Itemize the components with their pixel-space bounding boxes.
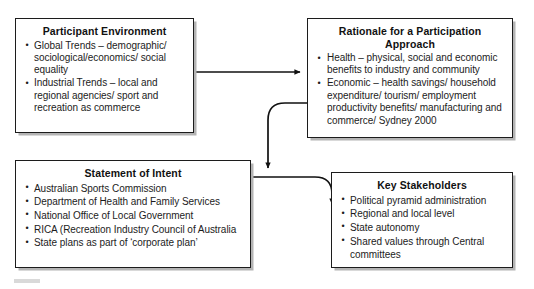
list-item: RICA (Recreation Industry Council of Aus… xyxy=(25,223,241,236)
node-list-participant-environment: Global Trends – demographic/ sociologica… xyxy=(25,40,184,115)
node-title-rationale: Rationale for a Participation Approach xyxy=(317,25,503,50)
node-list-rationale: Health – physical, social and economic b… xyxy=(317,52,503,127)
list-item: Department of Health and Family Services xyxy=(25,195,241,208)
page-edge-artifact xyxy=(14,279,40,283)
list-item: Economic – health savings/ household exp… xyxy=(317,77,503,127)
node-rationale-for-a-participation-approach[interactable]: Rationale for a Participation Approach H… xyxy=(307,18,513,138)
node-title-key-stakeholders: Key Stakeholders xyxy=(341,179,503,192)
node-participant-environment[interactable]: Participant Environment Global Trends – … xyxy=(15,18,194,133)
list-item: Health – physical, social and economic b… xyxy=(317,52,503,77)
node-title-statement-of-intent: Statement of Intent xyxy=(25,167,241,180)
node-statement-of-intent[interactable]: Statement of Intent Australian Sports Co… xyxy=(15,160,251,268)
node-list-statement-of-intent: Australian Sports Commission Department … xyxy=(25,182,241,250)
node-title-participant-environment: Participant Environment xyxy=(25,25,184,38)
diagram-canvas: Participant Environment Global Trends – … xyxy=(0,0,534,289)
node-key-stakeholders[interactable]: Key Stakeholders Political pyramid admin… xyxy=(331,172,513,268)
list-item: State autonomy xyxy=(341,221,503,234)
connector-rationale-to-statement-of-intent xyxy=(268,103,308,168)
list-item: National Office of Local Government xyxy=(25,209,241,222)
list-item: Global Trends – demographic/ sociologica… xyxy=(25,40,184,77)
node-list-key-stakeholders: Political pyramid administration Regiona… xyxy=(341,194,503,262)
list-item: Political pyramid administration xyxy=(341,194,503,207)
list-item: State plans as part of ‘corporate plan’ xyxy=(25,236,241,249)
list-item: Australian Sports Commission xyxy=(25,182,241,195)
connector-statement-of-intent-to-key-stakeholders xyxy=(252,177,332,204)
list-item: Regional and local level xyxy=(341,207,503,220)
list-item: Shared values through Central committees xyxy=(341,235,503,261)
list-item: Industrial Trends – local and regional a… xyxy=(25,77,184,114)
